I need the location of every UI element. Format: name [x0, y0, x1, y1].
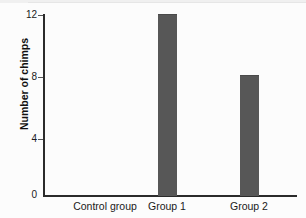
x-tick-label-group-1: Group 1	[148, 200, 186, 213]
scan-artifact-line	[28, 2, 306, 3]
bar-group-2	[240, 75, 259, 196]
y-tick-label-8: 8	[3, 72, 37, 82]
y-tick-label-4: 4	[3, 134, 37, 144]
x-tick-label-group-2: Group 2	[230, 200, 268, 213]
x-tick-label-control-group: Control group	[73, 200, 137, 213]
bar-group-1	[158, 14, 177, 196]
y-tick-label-12: 12	[3, 10, 37, 20]
y-tick-label-0: 0	[3, 190, 37, 200]
bar-chart: Number of chimps 12 8 4 0 Control group …	[0, 0, 306, 218]
y-tick-label-group: 12 8 4 0	[0, 0, 37, 218]
plot-area	[45, 14, 297, 196]
